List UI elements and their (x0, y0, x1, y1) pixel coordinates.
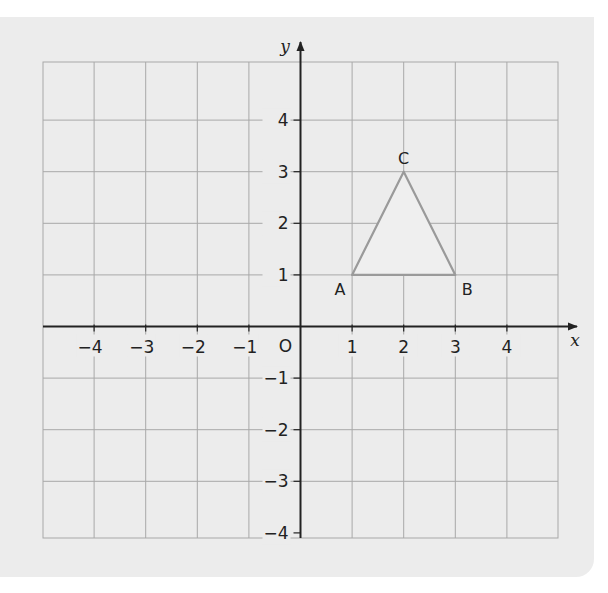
y-tick-label: 1 (278, 265, 289, 285)
coordinate-grid: −4−3−2−112344321−1−2−3−4OxyABC (0, 0, 608, 593)
x-tick-label: −4 (78, 337, 103, 357)
origin-label: O (279, 336, 292, 356)
axes (43, 42, 577, 538)
y-axis-name: y (279, 36, 290, 56)
x-tick-label: 2 (398, 337, 409, 357)
x-tick-label: −1 (232, 337, 257, 357)
y-tick-label: −3 (263, 471, 288, 491)
x-axis-name: x (570, 330, 580, 350)
y-tick-label: −4 (263, 523, 288, 543)
vertex-label-b: B (462, 280, 473, 299)
y-tick-label: 3 (278, 162, 289, 182)
vertex-label-c: C (398, 149, 409, 168)
x-tick-label: −3 (129, 337, 154, 357)
y-tick-label: 2 (278, 213, 289, 233)
x-tick-label: 4 (501, 337, 512, 357)
y-tick-label: −2 (263, 420, 288, 440)
x-tick-label: 1 (347, 337, 358, 357)
x-tick-label: −2 (181, 337, 206, 357)
axis-labels: −4−3−2−112344321−1−2−3−4OxyABC (78, 36, 581, 543)
vertex-label-a: A (335, 280, 346, 299)
x-tick-label: 3 (450, 337, 461, 357)
y-tick-label: −1 (263, 368, 288, 388)
y-tick-label: 4 (278, 110, 289, 130)
